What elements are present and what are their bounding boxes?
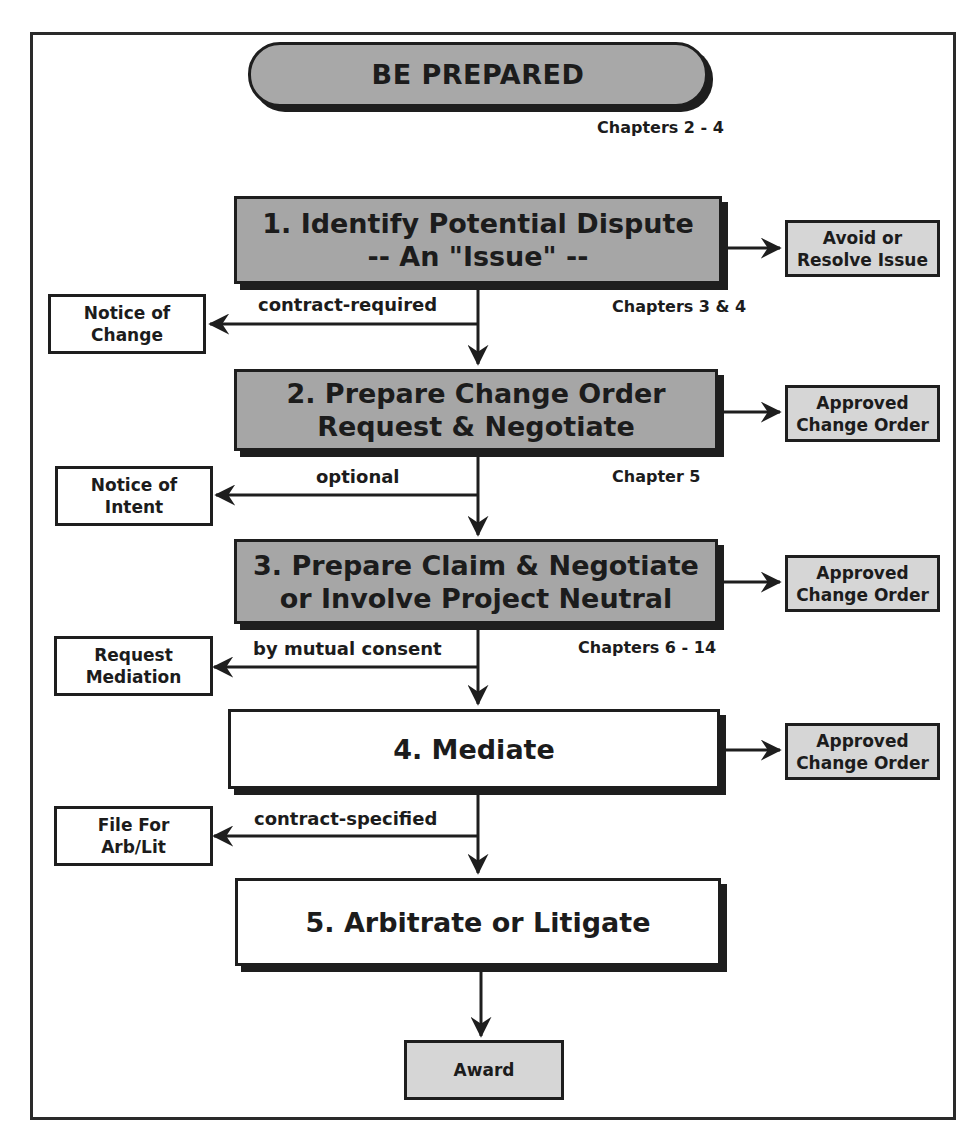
side-line: Request <box>86 644 182 666</box>
chapters-label-step-1: Chapters 3 & 4 <box>612 297 746 316</box>
outcome-approved-change-order-2: ApprovedChange Order <box>785 385 940 442</box>
step-5-title: 5. Arbitrate or Litigate <box>306 906 651 939</box>
branch-label-optional: optional <box>316 466 400 487</box>
side-box-notice-of-change: Notice ofChange <box>48 294 206 354</box>
step-3-box: 3. Prepare Claim & Negotiate or Involve … <box>234 539 718 624</box>
side-box-request-mediation: RequestMediation <box>54 636 213 696</box>
side-line: Notice of <box>84 302 170 324</box>
branch-label-contract-required: contract-required <box>258 294 437 315</box>
chapters-label-header: Chapters 2 - 4 <box>597 118 724 137</box>
step-4-box: 4. Mediate <box>228 709 720 789</box>
step-3-title: 3. Prepare Claim & Negotiate <box>253 549 699 582</box>
side-box-file-for-arb-lit: File ForArb/Lit <box>54 806 213 866</box>
award-label: Award <box>454 1059 515 1081</box>
step-1-title: 1. Identify Potential Dispute <box>262 207 694 240</box>
branch-label-mutual-consent: by mutual consent <box>253 638 442 659</box>
side-line: Notice of <box>91 474 177 496</box>
chapters-label-step-3: Chapters 6 - 14 <box>578 638 716 657</box>
branch-label-contract-specified: contract-specified <box>254 808 437 829</box>
outcome-line: Resolve Issue <box>797 249 928 271</box>
outcome-line: Approved <box>796 392 929 414</box>
be-prepared-banner: BE PREPARED <box>248 42 708 107</box>
outcome-line: Change Order <box>796 752 929 774</box>
outcome-line: Approved <box>796 730 929 752</box>
step-2-box: 2. Prepare Change Order Request & Negoti… <box>234 369 718 451</box>
outcome-line: Avoid or <box>797 227 928 249</box>
outcome-line: Approved <box>796 562 929 584</box>
outcome-line: Change Order <box>796 414 929 436</box>
side-line: Mediation <box>86 666 182 688</box>
step-2-title: 2. Prepare Change Order <box>286 377 665 410</box>
step-1-subtitle: -- An "Issue" -- <box>262 240 694 273</box>
banner-title: BE PREPARED <box>372 59 585 90</box>
step-5-box: 5. Arbitrate or Litigate <box>235 878 721 966</box>
step-3-subtitle: or Involve Project Neutral <box>253 582 699 615</box>
side-box-notice-of-intent: Notice ofIntent <box>55 466 213 526</box>
step-1-box: 1. Identify Potential Dispute -- An "Iss… <box>234 196 722 284</box>
side-line: Change <box>84 324 170 346</box>
outcome-line: Change Order <box>796 584 929 606</box>
side-line: File For <box>98 814 170 836</box>
outcome-approved-change-order-3: ApprovedChange Order <box>785 555 940 612</box>
side-line: Arb/Lit <box>98 836 170 858</box>
award-box: Award <box>404 1040 564 1100</box>
side-line: Intent <box>91 496 177 518</box>
step-2-subtitle: Request & Negotiate <box>286 410 665 443</box>
step-4-title: 4. Mediate <box>393 733 555 766</box>
outcome-approved-change-order-4: ApprovedChange Order <box>785 723 940 780</box>
outcome-avoid-resolve-issue: Avoid orResolve Issue <box>785 220 940 277</box>
chapters-label-step-2: Chapter 5 <box>612 467 700 486</box>
